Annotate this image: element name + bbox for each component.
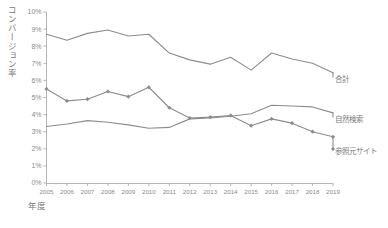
x-axis-tick-label: 2012 <box>183 188 197 195</box>
data-point-marker <box>85 97 89 101</box>
y-axis-tick-label: 3% <box>31 128 41 135</box>
legend-item-organic-search: 自然検索 <box>335 113 363 124</box>
chart-plot-svg: 0%1%2%3%4%5%6%7%8%9%10% 2005200620072008… <box>0 0 388 228</box>
y-axis-tick-label: 0% <box>31 179 41 186</box>
data-point-marker <box>249 124 253 128</box>
data-point-marker <box>290 121 294 125</box>
data-point-marker <box>106 89 110 93</box>
y-axis-tick-label: 7% <box>31 60 41 67</box>
x-axis-tick-label: 2013 <box>203 188 217 195</box>
data-point-marker <box>126 95 130 99</box>
y-axis-tick-label: 2% <box>31 145 41 152</box>
series-line-2 <box>47 87 334 137</box>
x-axis-tick-label: 2011 <box>163 188 177 195</box>
series-path-group <box>47 30 334 137</box>
x-axis-tick-label: 2007 <box>81 188 95 195</box>
x-axis-tick-label: 2005 <box>40 188 54 195</box>
data-point-marker <box>208 115 212 119</box>
y-axis-tick-label: 1% <box>31 162 41 169</box>
y-axis-tick-label: 4% <box>31 111 41 118</box>
x-axis-tick-label: 2006 <box>60 188 74 195</box>
series-marker-group <box>44 85 335 139</box>
series-line-0 <box>47 30 334 73</box>
y-axis-tick-label: 6% <box>31 77 41 84</box>
conversion-rate-line-chart: コンバージョン率 0%1%2%3%4%5%6%7%8%9%10% 2005200… <box>0 0 388 228</box>
y-axis-tick-group: 0%1%2%3%4%5%6%7%8%9%10% <box>27 8 46 186</box>
x-axis-tick-label: 2018 <box>306 188 320 195</box>
legend-item-total: 合計 <box>335 73 349 84</box>
x-axis-tick-label: 2008 <box>101 188 115 195</box>
y-axis-tick-label: 10% <box>27 8 41 15</box>
x-axis-tick-label: 2015 <box>244 188 258 195</box>
x-axis-tick-label: 2010 <box>142 188 156 195</box>
legend-item-referral-site: 参照元サイト <box>335 145 377 156</box>
y-axis-tick-label: 8% <box>31 43 41 50</box>
x-axis-title: 年度 <box>28 199 46 211</box>
x-axis-tick-label: 2014 <box>224 188 238 195</box>
y-axis-tick-label: 5% <box>31 94 41 101</box>
x-axis-tick-group: 2005200620072008200920102011201220132014… <box>40 183 341 195</box>
x-axis-tick-label: 2009 <box>121 188 135 195</box>
x-axis-tick-label: 2017 <box>285 188 299 195</box>
x-axis-tick-label: 2019 <box>326 188 340 195</box>
data-point-marker <box>270 117 274 121</box>
y-axis-tick-label: 9% <box>31 26 41 33</box>
x-axis-tick-label: 2016 <box>265 188 279 195</box>
data-point-marker <box>310 130 314 134</box>
